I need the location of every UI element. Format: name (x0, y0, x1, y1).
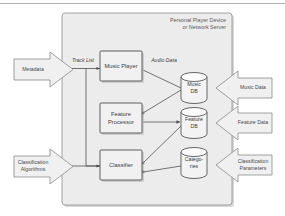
categories-db-label-line1: Catego- (185, 156, 204, 162)
music-player-label: Music Player (104, 63, 137, 69)
feature-db-label-line1: Feature (185, 116, 203, 122)
flow-label-audio-data: Audio Data (150, 57, 177, 63)
diagram-root: Personal Player Device or Network Server… (0, 0, 285, 216)
feature-processor-label-line2: Processor (108, 119, 134, 125)
database-categories-db[interactable]: Catego- ries (181, 148, 207, 179)
flow-label-track-list: Track List (72, 57, 95, 63)
feature-processor-label-line1: Feature (111, 111, 131, 117)
music-db-label-line1: Music (187, 81, 201, 87)
classification-algorithms-label-line2: Algorithms (21, 166, 46, 172)
music-data-arrow-label: Music Data (240, 84, 266, 90)
categories-db-cylinder-top (181, 148, 207, 157)
music-db-cylinder-top (181, 73, 207, 82)
container-title-line2: or Network Server (183, 24, 227, 30)
process-box-classifier[interactable]: Classifier (100, 150, 144, 182)
metadata-arrow-label: Metadata (22, 66, 44, 72)
classification-algorithms-label-line1: Classification (18, 159, 49, 165)
database-feature-db[interactable]: Feature DB (181, 108, 207, 139)
classification-parameters-label-line2: Parameters (240, 165, 267, 171)
container-box (62, 13, 232, 205)
feature-db-label-line2: DB (190, 123, 198, 129)
feature-db-cylinder-top (181, 108, 207, 117)
database-music-db[interactable]: Music DB (181, 73, 207, 104)
feature-data-arrow-label: Feature Data (238, 119, 268, 125)
music-db-label-line2: DB (190, 88, 198, 94)
process-box-music-player[interactable]: Music Player (100, 51, 144, 83)
container-title-line1: Personal Player Device (170, 17, 226, 23)
classification-parameters-label-line1: Classification (238, 158, 269, 164)
classifier-label: Classifier (109, 162, 133, 168)
feature-processor-box[interactable] (100, 103, 142, 133)
process-box-feature-processor[interactable]: Feature Processor (100, 103, 144, 135)
categories-db-label-line2: ries (190, 163, 199, 169)
